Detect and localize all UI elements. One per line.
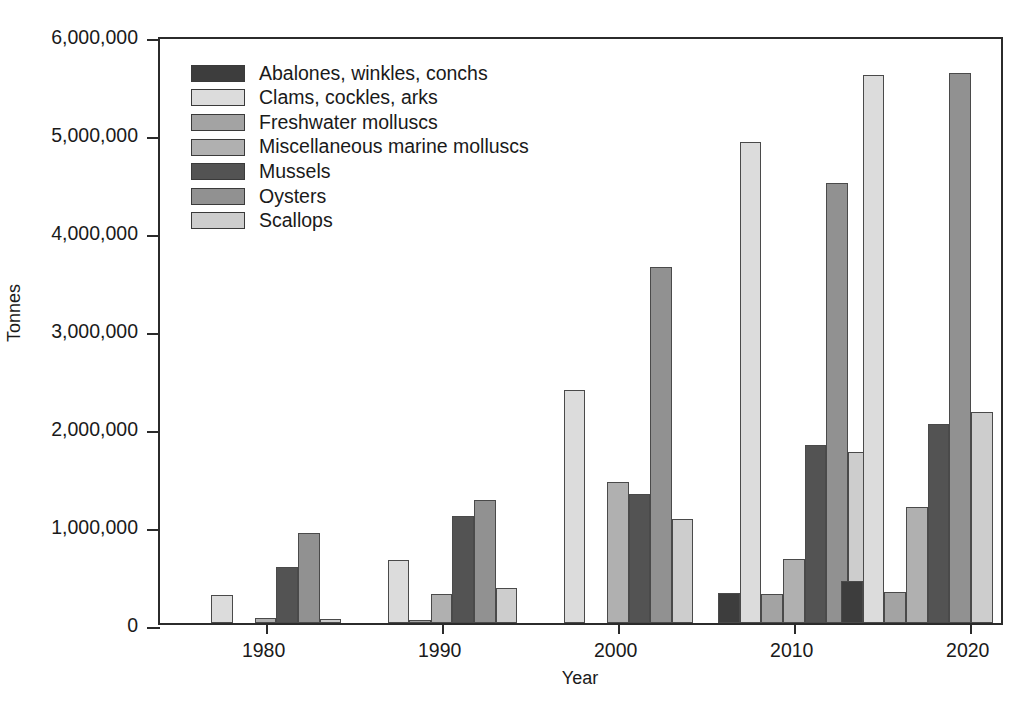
legend-label: Abalones, winkles, conchs bbox=[259, 64, 488, 84]
bar bbox=[431, 594, 453, 623]
y-axis-tick bbox=[147, 137, 160, 139]
bar bbox=[740, 142, 762, 623]
y-axis-tick bbox=[147, 333, 160, 335]
y-axis-tick-label: 4,000,000 bbox=[0, 222, 138, 245]
legend-item: Freshwater molluscs bbox=[191, 110, 529, 135]
bar bbox=[971, 412, 993, 623]
x-axis-tick-label: 2020 bbox=[946, 639, 989, 662]
y-axis-tick-label: 6,000,000 bbox=[0, 26, 138, 49]
y-axis-tick-label: 5,000,000 bbox=[0, 124, 138, 147]
bar bbox=[761, 594, 783, 623]
legend-swatch bbox=[191, 163, 245, 180]
bar bbox=[320, 619, 342, 623]
y-axis-tick-label: 2,000,000 bbox=[0, 418, 138, 441]
bar bbox=[607, 482, 629, 623]
legend: Abalones, winkles, conchsClams, cockles,… bbox=[191, 61, 529, 233]
legend-item: Mussels bbox=[191, 159, 529, 184]
x-axis-tick-label: 2010 bbox=[770, 639, 813, 662]
bar bbox=[672, 519, 694, 623]
y-axis-tick bbox=[147, 627, 160, 629]
y-axis-tick bbox=[147, 235, 160, 237]
legend-item: Abalones, winkles, conchs bbox=[191, 61, 529, 86]
plot-area: Abalones, winkles, conchsClams, cockles,… bbox=[158, 37, 1003, 625]
bar bbox=[496, 588, 518, 623]
x-axis-title: Year bbox=[562, 668, 598, 689]
y-axis-tick-label: 1,000,000 bbox=[0, 516, 138, 539]
x-axis-tick bbox=[618, 623, 620, 634]
x-axis-tick bbox=[970, 623, 972, 634]
bar bbox=[783, 559, 805, 623]
bar bbox=[211, 595, 233, 623]
bar bbox=[298, 533, 320, 623]
bar bbox=[841, 581, 863, 623]
legend-item: Scallops bbox=[191, 209, 529, 234]
legend-item: Clams, cockles, arks bbox=[191, 86, 529, 111]
legend-swatch bbox=[191, 188, 245, 205]
y-axis-tick bbox=[147, 431, 160, 433]
chart-figure: Tonnes 01,000,0002,000,0003,000,0004,000… bbox=[0, 0, 1029, 712]
bar bbox=[452, 516, 474, 623]
x-axis-tick bbox=[442, 623, 444, 634]
bar bbox=[928, 424, 950, 623]
x-axis-tick-label: 1990 bbox=[418, 639, 461, 662]
bar bbox=[276, 567, 298, 623]
x-axis-tick bbox=[266, 623, 268, 634]
bar bbox=[474, 500, 496, 623]
legend-label: Miscellaneous marine molluscs bbox=[259, 137, 529, 157]
x-axis-tick-label: 1980 bbox=[242, 639, 285, 662]
bar bbox=[863, 75, 885, 623]
legend-item: Miscellaneous marine molluscs bbox=[191, 135, 529, 160]
x-axis-tick bbox=[794, 623, 796, 634]
bar bbox=[629, 494, 651, 623]
legend-label: Oysters bbox=[259, 187, 326, 207]
y-axis-tick bbox=[147, 529, 160, 531]
legend-swatch bbox=[191, 212, 245, 229]
y-axis-title: Tonnes bbox=[4, 284, 25, 342]
y-axis-tick-label: 0 bbox=[0, 614, 138, 637]
legend-swatch bbox=[191, 65, 245, 82]
bar bbox=[906, 507, 928, 623]
x-axis-tick-label: 2000 bbox=[594, 639, 637, 662]
legend-item: Oysters bbox=[191, 184, 529, 209]
bar bbox=[650, 267, 672, 623]
legend-label: Scallops bbox=[259, 211, 333, 231]
legend-swatch bbox=[191, 89, 245, 106]
bar bbox=[388, 560, 410, 623]
legend-label: Freshwater molluscs bbox=[259, 113, 438, 133]
bar bbox=[884, 592, 906, 623]
bar bbox=[409, 620, 431, 623]
legend-label: Mussels bbox=[259, 162, 331, 182]
bar bbox=[718, 593, 740, 623]
bar bbox=[826, 183, 848, 624]
legend-swatch bbox=[191, 114, 245, 131]
bar bbox=[805, 445, 827, 623]
bar bbox=[564, 390, 586, 623]
legend-label: Clams, cockles, arks bbox=[259, 88, 438, 108]
y-axis-tick bbox=[147, 39, 160, 41]
legend-swatch bbox=[191, 139, 245, 156]
bar bbox=[949, 73, 971, 623]
